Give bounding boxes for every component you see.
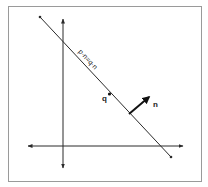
point-q-label: q [102, 94, 107, 103]
diagram-canvas: q n p·n=q·n [0, 0, 208, 187]
plane-line-end-dot [39, 16, 42, 19]
normal-label: n [153, 100, 158, 109]
point-q-dot [108, 92, 111, 95]
plane-line-end-dot [170, 156, 173, 159]
